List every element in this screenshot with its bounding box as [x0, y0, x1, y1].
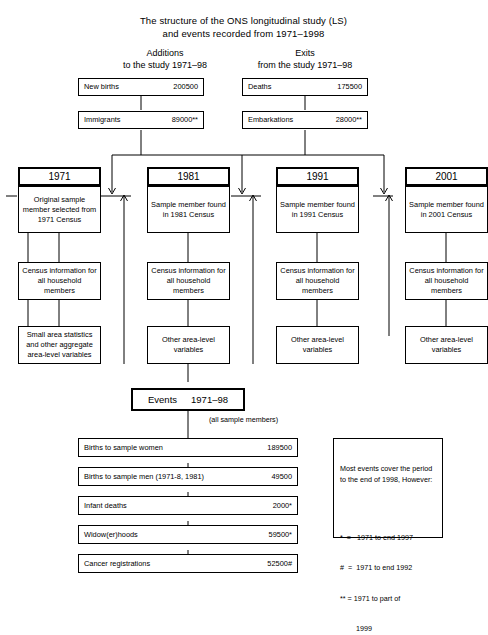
year-header-label: 1981	[177, 171, 199, 182]
notes-intro: Most events cover the period to the end …	[340, 464, 437, 484]
flow-value: 200500	[173, 82, 198, 92]
area-box-text: Other area-level variables	[280, 335, 355, 355]
event-row-value: 52500#	[267, 559, 292, 569]
events-header-box: Events 1971–98	[131, 388, 245, 411]
household-box-2001: Census information for all household mem…	[405, 262, 488, 300]
additions-heading: Additions to the study 1971–98	[105, 47, 225, 71]
exits-heading: Exits from the study 1971–98	[240, 47, 370, 71]
event-row-value: 49500	[271, 472, 292, 482]
flow-value: 89000**	[172, 115, 198, 125]
event-row-infant-deaths: Infant deaths 2000*	[78, 496, 298, 515]
notes-panel: Most events cover the period to the end …	[333, 438, 443, 538]
flow-value: 175500	[337, 82, 362, 92]
area-box-text: Other area-level variables	[409, 335, 484, 355]
year-header-label: 1971	[48, 171, 70, 182]
event-row-births-men: Births to sample men (1971-8, 1981) 4950…	[78, 467, 298, 486]
additions-heading-line2: to the study 1971–98	[105, 59, 225, 71]
area-box-1981: Other area-level variables	[147, 326, 230, 364]
household-box-text: Census information for all household mem…	[409, 266, 484, 296]
diagram-title: The structure of the ONS longitudinal st…	[0, 14, 487, 40]
area-box-text: Other area-level variables	[151, 335, 226, 355]
event-row-births-women: Births to sample women 189500	[78, 438, 298, 457]
flow-value: 28000**	[336, 115, 362, 125]
household-box-text: Census information for all household mem…	[280, 266, 355, 296]
event-row-widowerhoods: Widow(er)hoods 59500*	[78, 525, 298, 544]
member-box-text: Sample member found in 1991 Census	[280, 200, 355, 220]
member-box-2001: Sample member found in 2001 Census	[405, 186, 488, 233]
notes-legend-asterisk: * = 1971 to end 1997	[340, 533, 437, 543]
event-row-label: Births to sample women	[84, 443, 163, 453]
flow-label: Immigrants	[84, 115, 121, 125]
events-header-label: Events	[148, 394, 177, 405]
household-box-text: Census information for all household mem…	[22, 266, 97, 296]
event-row-value: 189500	[267, 443, 292, 453]
year-header-1971: 1971	[18, 167, 101, 186]
event-row-cancer-registrations: Cancer registrations 52500#	[78, 554, 298, 573]
year-header-2001: 2001	[405, 167, 488, 186]
year-header-label: 1991	[306, 171, 328, 182]
flow-box-deaths: Deaths 175500	[242, 78, 368, 96]
area-box-1971: Small area statistics and other aggregat…	[18, 326, 101, 364]
area-box-2001: Other area-level variables	[405, 326, 488, 364]
household-box-1981: Census information for all household mem…	[147, 262, 230, 300]
member-box-text: Original sample member selected from 197…	[22, 195, 97, 225]
flow-box-immigrants: Immigrants 89000**	[78, 111, 204, 129]
events-header-period: 1971–98	[191, 394, 228, 405]
notes-legend-double-asterisk: ** = 1971 to part of	[340, 594, 437, 604]
flow-label: New births	[84, 82, 119, 92]
flow-box-new-births: New births 200500	[78, 78, 204, 96]
event-row-value: 59500*	[269, 530, 292, 540]
household-box-text: Census information for all household mem…	[151, 266, 226, 296]
notes-legend-double-asterisk-cont: 1999	[340, 624, 437, 634]
event-row-label: Infant deaths	[84, 501, 127, 511]
additions-heading-line1: Additions	[105, 47, 225, 59]
events-caption: (all sample members)	[0, 415, 487, 424]
household-box-1971: Census information for all household mem…	[18, 262, 101, 300]
year-header-1991: 1991	[276, 167, 359, 186]
diagram-title-line1: The structure of the ONS longitudinal st…	[0, 14, 487, 27]
exits-heading-line2: from the study 1971–98	[240, 59, 370, 71]
member-box-1971: Original sample member selected from 197…	[18, 186, 101, 233]
year-header-label: 2001	[435, 171, 457, 182]
event-row-label: Widow(er)hoods	[84, 530, 138, 540]
member-box-1991: Sample member found in 1991 Census	[276, 186, 359, 233]
household-box-1991: Census information for all household mem…	[276, 262, 359, 300]
member-box-text: Sample member found in 2001 Census	[409, 200, 484, 220]
notes-spacer	[340, 505, 437, 512]
flow-box-embarkations: Embarkations 28000**	[242, 111, 368, 129]
flow-label: Embarkations	[248, 115, 293, 125]
member-box-text: Sample member found in 1981 Census	[151, 200, 226, 220]
event-row-value: 2000*	[273, 501, 292, 511]
flow-label: Deaths	[248, 82, 271, 92]
member-box-1981: Sample member found in 1981 Census	[147, 186, 230, 233]
notes-legend-hash: # = 1971 to end 1992	[340, 563, 437, 573]
event-row-label: Cancer registrations	[84, 559, 150, 569]
event-row-label: Births to sample men (1971-8, 1981)	[84, 472, 204, 482]
area-box-text: Small area statistics and other aggregat…	[22, 330, 97, 360]
area-box-1991: Other area-level variables	[276, 326, 359, 364]
diagram-title-line2: and events recorded from 1971–1998	[0, 27, 487, 40]
exits-heading-line1: Exits	[240, 47, 370, 59]
year-header-1981: 1981	[147, 167, 230, 186]
